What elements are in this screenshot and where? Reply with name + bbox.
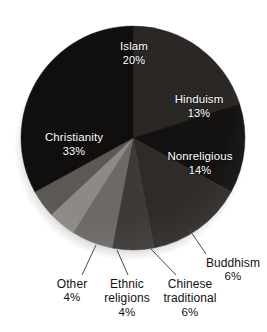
slice-label-buddhism-pct: 6% — [200, 270, 266, 284]
slice-label-other-name: Other — [48, 277, 96, 291]
slice-label-ethnic-religions-name: Ethnic — [96, 277, 158, 291]
slice-label-ethnic-religions-pct: 4% — [96, 306, 158, 320]
slice-label-ethnic-religions: Ethnic religions 4% — [96, 277, 158, 320]
slice-label-buddhism: Buddhism 6% — [200, 256, 266, 284]
slice-label-buddhism-name: Buddhism — [200, 256, 266, 270]
slice-label-other-pct: 4% — [48, 291, 96, 305]
slice-label-chinese-traditional-pct: 6% — [154, 306, 226, 320]
pie-chart: Islam 20% Hinduism 13% Nonreligious 14% … — [0, 0, 267, 332]
slice-label-chinese-traditional-name2: traditional — [154, 291, 226, 305]
slice-label-other: Other 4% — [48, 277, 96, 305]
slice-label-ethnic-religions-name2: religions — [96, 291, 158, 305]
pie-rim-highlight — [21, 26, 245, 250]
